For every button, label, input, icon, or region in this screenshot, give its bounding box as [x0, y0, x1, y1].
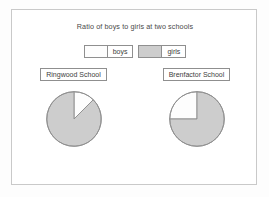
legend-label-girls: girls — [162, 46, 185, 57]
chart-frame: Ratio of boys to girls at two schools bo… — [11, 9, 257, 185]
legend-swatch-boys — [85, 46, 108, 57]
pie-label-brenfactor: Brenfactor School — [163, 68, 231, 81]
legend-item-boys: boys — [84, 45, 134, 58]
pie-panels: Ringwood School Brenfactor School — [12, 68, 258, 178]
pie-chart-ringwood — [45, 90, 103, 148]
pie-label-ringwood: Ringwood School — [40, 68, 106, 81]
legend-item-girls: girls — [138, 45, 186, 58]
chart-legend: boys girls — [12, 45, 258, 58]
pie-panel-ringwood: Ringwood School — [12, 68, 135, 178]
pie-chart-brenfactor — [168, 90, 226, 148]
pie-chart-figure: Ratio of boys to girls at two schools bo… — [12, 10, 258, 186]
pie-wrap-brenfactor — [168, 90, 226, 148]
screenshot-canvas: Ratio of boys to girls at two schools bo… — [0, 0, 269, 197]
legend-swatch-girls — [139, 46, 162, 57]
page-title: Ratio of boys to girls at two schools — [12, 22, 258, 31]
legend-label-boys: boys — [108, 46, 133, 57]
pie-wrap-ringwood — [45, 90, 103, 148]
pie-panel-brenfactor: Brenfactor School — [135, 68, 258, 178]
